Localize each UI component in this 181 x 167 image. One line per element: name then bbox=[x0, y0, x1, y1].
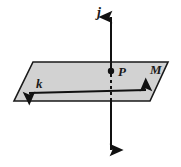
point-P-dot bbox=[108, 68, 114, 74]
label-point-P: P bbox=[118, 64, 127, 79]
figure-canvas: j P M k bbox=[0, 0, 181, 167]
label-line-k: k bbox=[36, 76, 43, 91]
label-line-j: j bbox=[95, 5, 101, 20]
label-plane-M: M bbox=[149, 62, 162, 77]
geometry-figure: j P M k bbox=[0, 0, 181, 167]
